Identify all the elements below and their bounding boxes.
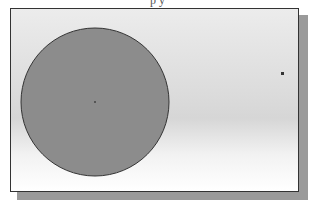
point-marker[interactable] (281, 72, 284, 75)
drawing-layer (0, 0, 315, 207)
circle-center-point (94, 101, 96, 103)
